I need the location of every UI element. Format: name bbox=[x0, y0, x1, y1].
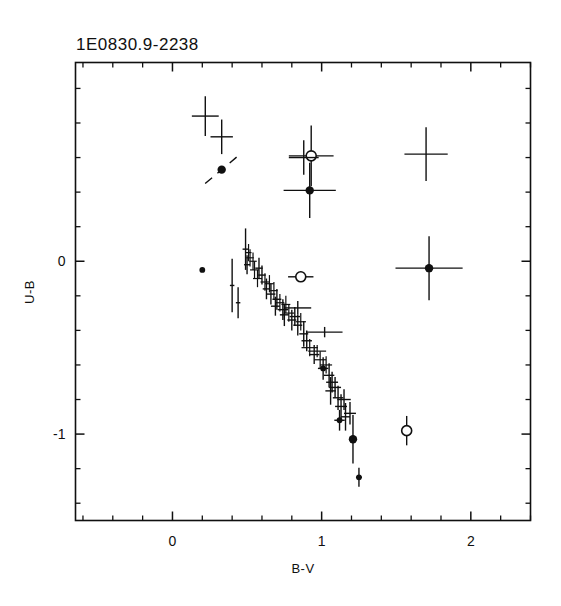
marker-filled-circle bbox=[217, 165, 225, 173]
color-color-diagram-figure: 1E0830.9-2238 012 0-1 B-V U-B bbox=[0, 0, 561, 606]
marker-filled-circle bbox=[425, 264, 433, 272]
marker-open-circle bbox=[296, 272, 306, 282]
marker-filled-circle bbox=[199, 267, 205, 273]
plot-canvas: 1E0830.9-2238 012 0-1 B-V U-B bbox=[0, 0, 561, 606]
y-axis-label: U-B bbox=[22, 280, 37, 304]
x-tick-label: 2 bbox=[467, 533, 475, 549]
marker-filled-circle bbox=[356, 474, 362, 480]
marker-open-circle bbox=[306, 151, 316, 161]
marker-filled-circle bbox=[349, 435, 357, 443]
data-point bbox=[199, 267, 205, 273]
marker-filled-circle bbox=[306, 186, 314, 194]
marker-open-circle bbox=[402, 426, 412, 436]
y-tick-label: 0 bbox=[58, 253, 66, 269]
x-tick-label: 1 bbox=[318, 533, 326, 549]
y-tick-label: -1 bbox=[53, 426, 66, 442]
marker-filled-circle bbox=[337, 417, 343, 423]
x-axis-label: B-V bbox=[291, 561, 314, 576]
plot-title: 1E0830.9-2238 bbox=[76, 35, 199, 54]
marker-filled-circle bbox=[320, 366, 326, 372]
x-tick-label: 0 bbox=[169, 533, 177, 549]
